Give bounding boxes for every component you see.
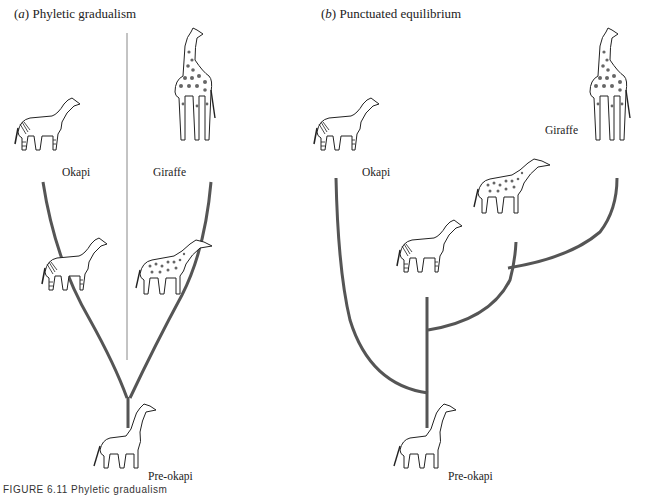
intermediate-okapi-illustration xyxy=(42,238,107,290)
okapi-illustration xyxy=(314,98,379,150)
label-a-okapi: Okapi xyxy=(62,166,90,178)
label-a-preokapi: Pre-okapi xyxy=(148,470,193,482)
label-b-giraffe: Giraffe xyxy=(545,124,578,136)
intermediate-okapi-illustration xyxy=(397,220,462,272)
giraffe-illustration xyxy=(590,28,630,140)
branch-a-giraffe xyxy=(130,182,211,398)
intermediate-giraffe-illustration xyxy=(474,159,550,213)
label-a-giraffe: Giraffe xyxy=(153,166,186,178)
pre-okapi-illustration xyxy=(394,404,456,468)
label-b-preokapi: Pre-okapi xyxy=(448,470,493,482)
branch-b-okapi xyxy=(336,178,428,393)
figure-caption: FIGURE 6.11 Phyletic gradualism xyxy=(3,484,167,495)
pre-okapi-illustration xyxy=(94,404,156,468)
label-b-okapi: Okapi xyxy=(362,166,390,178)
branch-a-okapi xyxy=(43,182,127,398)
branch-b-giraffe xyxy=(508,178,617,268)
giraffe-illustration xyxy=(175,28,215,140)
intermediate-giraffe-illustration xyxy=(136,240,212,294)
okapi-illustration xyxy=(15,98,80,150)
